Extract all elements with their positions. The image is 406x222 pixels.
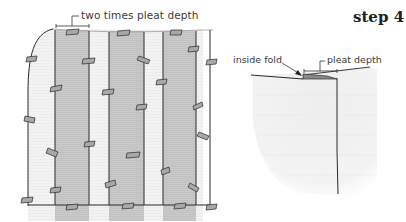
pin-icon: [82, 58, 95, 64]
pleating-diagram: two times pleat depth inside fold pleat …: [0, 0, 406, 222]
pleat-depth-label: pleat depth: [327, 54, 382, 65]
pleat-detail-panel: [251, 61, 377, 196]
diagram-graphics: [0, 0, 406, 222]
inside-fold-label: inside fold: [233, 54, 282, 65]
fabric-detail: [253, 67, 377, 196]
pin-icon: [126, 152, 140, 158]
pin-icon: [66, 29, 79, 35]
pin-icon: [206, 204, 217, 210]
pin-icon: [117, 30, 130, 36]
pin-icon: [156, 79, 167, 85]
pleat-3: [163, 31, 196, 221]
pin-icon: [84, 141, 95, 147]
pin-icon: [50, 187, 61, 193]
two-times-pleat-depth-label: two times pleat depth: [81, 9, 199, 21]
pin-icon: [188, 46, 199, 52]
pin-icon: [21, 197, 33, 203]
pin-icon: [174, 203, 186, 209]
pin-icon: [122, 203, 134, 209]
pleated-fabric-panel: [21, 16, 217, 221]
pin-icon: [170, 30, 182, 35]
pin-icon: [136, 104, 147, 110]
pin-icon: [66, 204, 78, 210]
pin-icon: [102, 89, 114, 95]
pin-icon: [26, 56, 37, 62]
pin-icon: [206, 59, 217, 65]
step-title: step 4: [353, 8, 404, 26]
